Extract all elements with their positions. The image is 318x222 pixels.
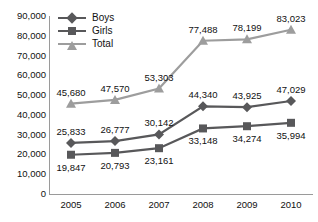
data-label-boys: 47,029 — [265, 84, 317, 95]
data-label-girls: 35,994 — [265, 130, 317, 141]
legend-label-total: Total — [86, 38, 113, 49]
legend-label-girls: Girls — [86, 25, 113, 36]
legend-label-boys: Boys — [86, 12, 114, 23]
square-marker-icon — [68, 27, 76, 35]
series-marker-girls — [287, 119, 295, 127]
data-label-girls: 23,161 — [133, 155, 185, 166]
legend-item-girls: Girls — [58, 24, 150, 37]
series-marker-girls — [111, 149, 119, 157]
series-marker-girls — [199, 124, 207, 132]
legend-swatch-girls — [58, 25, 86, 37]
data-label-boys: 30,142 — [133, 117, 185, 128]
line-chart: 90,00080,00070,00060,00050,00040,00030,0… — [0, 0, 318, 222]
series-marker-boys — [110, 136, 120, 146]
series-marker-girls — [155, 144, 163, 152]
chart-legend: Boys Girls Total — [58, 11, 150, 50]
legend-item-total: Total — [58, 37, 150, 50]
series-marker-girls — [243, 122, 251, 130]
series-marker-total — [286, 25, 296, 34]
data-label-total: 78,199 — [221, 22, 273, 33]
series-marker-girls — [67, 151, 75, 159]
diamond-marker-icon — [66, 12, 77, 23]
series-marker-boys — [286, 96, 296, 106]
legend-item-boys: Boys — [58, 11, 150, 24]
triangle-marker-icon — [67, 41, 77, 50]
data-label-total: 47,570 — [89, 83, 141, 94]
data-label-total: 53,303 — [133, 72, 185, 83]
legend-swatch-total — [58, 38, 86, 50]
data-label-total: 83,023 — [265, 13, 317, 24]
series-marker-boys — [66, 138, 76, 148]
legend-swatch-boys — [58, 12, 86, 24]
series-marker-boys — [242, 102, 252, 112]
